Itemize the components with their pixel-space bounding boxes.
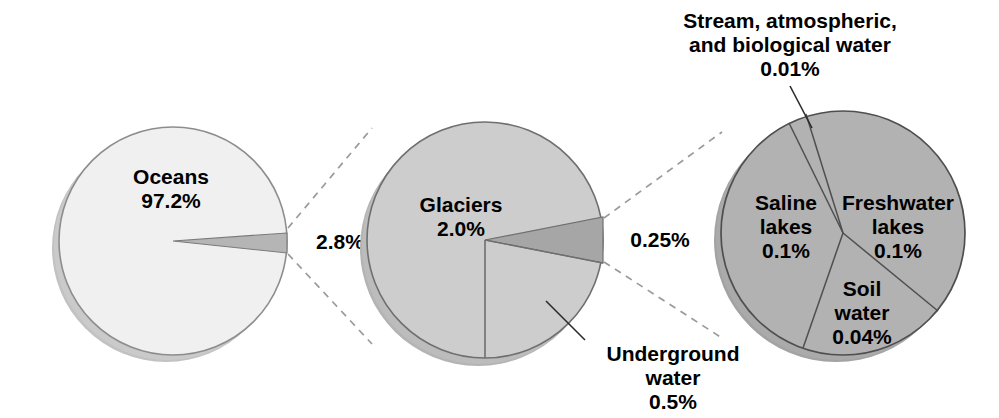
pie3-stream-label-line2: and biological water <box>689 33 891 56</box>
pie3-stream-label-line1: Stream, atmospheric, <box>683 9 897 32</box>
pie1-callout-2-8-percent: 2.8% <box>316 230 364 253</box>
pie2-glaciers-label-line2: 2.0% <box>437 217 485 240</box>
figure-canvas: Oceans 97.2% 2.8% Glaciers 2.0% 0.25% Un… <box>0 0 999 418</box>
pie3-soil-label-line2: water <box>834 301 890 324</box>
pie3-freshwater-label-line3: 0.1% <box>874 239 922 262</box>
pie1-oceans-label-line1: Oceans <box>133 165 209 188</box>
pie2-underground-label-line3: 0.5% <box>649 390 697 413</box>
pie3-saline-label-line2: lakes <box>760 215 813 238</box>
pie3-freshwater-label-line1: Freshwater <box>842 191 954 214</box>
pie2-underground-label-line2: water <box>645 366 701 389</box>
pie3-soil-label-line3: 0.04% <box>832 325 892 348</box>
pie2-callout-0-25-percent: 0.25% <box>630 228 690 251</box>
pie3-stream-label-line3: 0.01% <box>760 57 820 80</box>
pie1-oceans-label-line2: 97.2% <box>141 189 201 212</box>
pie2-glaciers-label-line1: Glaciers <box>420 193 503 216</box>
pie3-saline-label-line3: 0.1% <box>762 239 810 262</box>
pie3-freshwater-label-line2: lakes <box>872 215 925 238</box>
pie3-soil-label-line1: Soil <box>843 277 882 300</box>
water-distribution-pie-figure: Oceans 97.2% 2.8% Glaciers 2.0% 0.25% Un… <box>0 0 999 418</box>
pie2-underground-label-line1: Underground <box>607 342 740 365</box>
pie3-saline-label-line1: Saline <box>755 191 817 214</box>
